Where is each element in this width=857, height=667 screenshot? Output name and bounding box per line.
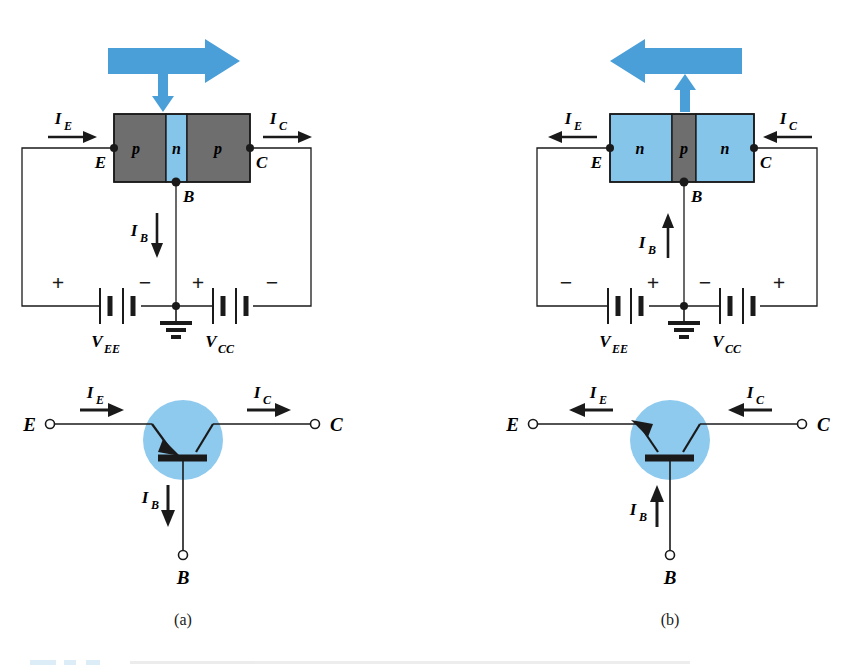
caption-a: (a) [174, 611, 192, 629]
block-label-p-mid-b: p [678, 140, 688, 158]
caption-marker-1 [30, 660, 56, 665]
symbol-terminal-E-circle-b[interactable] [529, 420, 538, 429]
symbol-label-B-a: B [176, 567, 190, 588]
symbol-terminal-B-circle-b[interactable] [666, 551, 675, 560]
symbol-current-sub-IC-b: C [756, 393, 765, 407]
transistor-figure-svg: p n p E C B I E I C I B [0, 0, 857, 667]
terminal-label-C-a: C [256, 153, 268, 172]
polarity-VCC-right-b: + [773, 270, 786, 295]
symbol-current-sub-IB-a: B [150, 498, 159, 512]
current-sub-IB-a: B [139, 231, 148, 245]
polarity-VCC-left-b: − [699, 270, 712, 295]
caption-text-trace [130, 661, 690, 664]
caption-marker-3 [86, 660, 100, 665]
terminal-label-B-a: B [182, 187, 194, 206]
semiconductor-block-a: p n p [114, 114, 250, 182]
background [0, 0, 857, 667]
symbol-current-sub-IE-a: E [95, 393, 104, 407]
current-sub-IE-b: E [573, 119, 582, 133]
block-label-n-left-b: n [636, 140, 645, 157]
source-label-VEE-b: V [599, 332, 612, 351]
terminal-label-E-b: E [590, 153, 602, 172]
terminal-label-B-b: B [690, 187, 702, 206]
symbol-current-sub-IE-b: E [598, 393, 607, 407]
block-label-n-mid-a: n [172, 140, 181, 157]
region-p-emitter-a [114, 114, 166, 182]
block-label-p-right-a: p [212, 140, 222, 158]
polarity-VCC-left-a: + [192, 270, 205, 295]
block-label-n-right-b: n [721, 140, 730, 157]
source-sub-VEE-a: EE [103, 342, 120, 356]
source-label-VEE-a: V [91, 332, 104, 351]
symbol-label-C-b: C [817, 414, 830, 435]
polarity-VEE-right-a: − [139, 270, 152, 295]
symbol-label-C-a: C [330, 414, 343, 435]
symbol-terminal-C-circle-b[interactable] [798, 420, 807, 429]
figure-canvas: p n p E C B I E I C I B [0, 0, 857, 667]
source-label-VCC-a: V [205, 332, 218, 351]
polarity-VCC-right-a: − [266, 270, 279, 295]
polarity-VEE-left-b: − [560, 270, 573, 295]
source-sub-VCC-b: CC [725, 342, 742, 356]
symbol-label-E-b: E [505, 414, 519, 435]
semiconductor-block-b: n p n [610, 114, 754, 182]
caption-b: (b) [661, 611, 680, 629]
symbol-current-sub-IC-a: C [263, 393, 272, 407]
current-sub-IC-a: C [279, 119, 288, 133]
symbol-terminal-B-circle-a[interactable] [179, 551, 188, 560]
symbol-label-E-a: E [22, 414, 36, 435]
symbol-label-B-b: B [663, 567, 677, 588]
current-sub-IE-a: E [63, 119, 72, 133]
caption-marker-2 [64, 660, 76, 665]
terminal-label-C-b: C [760, 153, 772, 172]
source-sub-VCC-a: CC [218, 342, 235, 356]
polarity-VEE-left-a: + [52, 270, 65, 295]
block-label-p-left-a: p [130, 140, 140, 158]
symbol-terminal-E-circle-a[interactable] [46, 420, 55, 429]
current-sub-IB-b: B [647, 243, 656, 257]
source-sub-VEE-b: EE [611, 342, 628, 356]
terminal-label-E-a: E [94, 153, 106, 172]
symbol-current-sub-IB-b: B [638, 510, 647, 524]
current-sub-IC-b: C [789, 119, 798, 133]
polarity-VEE-right-b: + [647, 270, 660, 295]
source-label-VCC-b: V [712, 332, 725, 351]
symbol-terminal-C-circle-a[interactable] [311, 420, 320, 429]
